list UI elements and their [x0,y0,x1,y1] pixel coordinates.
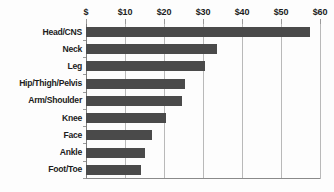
bar-row [86,93,320,110]
x-axis-tick-label: $20 [157,7,171,17]
bar [86,130,152,140]
y-axis-category-label: Arm/Shoulder [0,95,82,105]
y-axis-category-label: Foot/Toe [0,164,82,174]
bar [86,165,141,175]
y-axis-category-label: Knee [0,113,82,123]
y-axis-category-label: Hip/Thigh/Pelvis [0,78,82,88]
bar [86,148,145,158]
bar [86,113,166,123]
y-axis-category-label: Face [0,130,82,140]
x-axis-tick-label-group: $$10$20$30$40$50$60 [0,0,334,24]
x-axis-tick-label: $40 [235,7,249,17]
x-axis-tick-label: $ [84,7,89,17]
bar [86,61,205,71]
bar-chart: $$10$20$30$40$50$60 Head/CNSNeckLegHip/T… [0,0,334,192]
bar-row [86,110,320,127]
gridline [320,24,321,179]
x-axis-baseline [86,178,320,179]
bar [86,44,217,54]
bar-row [86,58,320,75]
bar [86,27,310,37]
bar-row [86,76,320,93]
x-axis-tick-label: $30 [196,7,210,17]
y-axis-category-label: Leg [0,61,82,71]
bar [86,79,185,89]
plot-area [86,24,320,179]
bar-row [86,41,320,58]
bar-row [86,145,320,162]
bar-row [86,24,320,41]
y-axis-category-label-group: Head/CNSNeckLegHip/Thigh/PelvisArm/Shoul… [0,24,82,179]
x-axis-tick-label: $60 [313,7,327,17]
y-axis-category-label: Neck [0,44,82,54]
y-axis-category-label: Head/CNS [0,27,82,37]
bar-row [86,162,320,179]
bar-row [86,127,320,144]
x-axis-tick-label: $10 [118,7,132,17]
bar [86,96,182,106]
x-axis-tick-label: $50 [274,7,288,17]
y-axis-category-label: Ankle [0,147,82,157]
